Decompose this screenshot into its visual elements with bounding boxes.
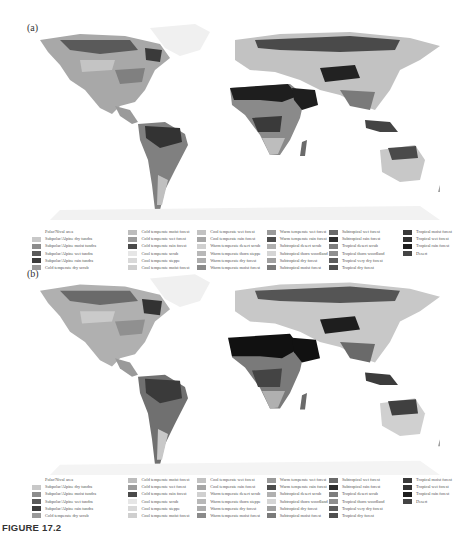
legend-swatch xyxy=(267,499,276,504)
legend-item: Subtropical thorn woodland xyxy=(267,498,329,505)
legend-item: Subtropical rain forest xyxy=(329,484,403,491)
legend-label: Polar/Nival area xyxy=(45,229,73,235)
legend-label: Tropical moist forest xyxy=(416,477,452,483)
legend-item: Warm temperate moist forest xyxy=(197,512,267,519)
legend-item: Warm temperate desert scrub xyxy=(197,243,267,250)
legend-column: Subtropical wet forest Subtropical rain … xyxy=(329,477,403,520)
legend-label: Cold temperate rain forest xyxy=(141,491,186,497)
legend-swatch xyxy=(267,513,276,518)
legend-column: Polar/Nival area Subpolar/Alpine dry tun… xyxy=(32,477,128,520)
legend-item: Tropical rain forest xyxy=(403,243,452,250)
legend-label: Warm temperate moist forest xyxy=(210,513,260,519)
legend-swatch xyxy=(197,499,206,504)
legend-item: Subpolar/Alpine dry tundra xyxy=(32,236,128,243)
legend-swatch xyxy=(267,506,276,511)
legend-label: Subtropical wet forest xyxy=(342,229,380,235)
legend-item: Cold temperate moist forest xyxy=(128,229,197,236)
legend-label: Subtropical wet forest xyxy=(342,477,380,483)
legend-item: Cool temperate moist forest xyxy=(128,512,197,519)
legend-label: Subpolar/Alpine moist tundra xyxy=(45,243,96,249)
legend-item: Tropical moist forest xyxy=(403,477,452,484)
legend-swatch xyxy=(197,513,206,518)
legend-item: Warm temperate rain forest xyxy=(267,484,329,491)
legend-label: Warm temperate desert scrub xyxy=(210,243,260,249)
legend-label: Desert xyxy=(416,499,427,505)
legend-item: Cool temperate wet forest xyxy=(197,229,267,236)
legend-label: Cold temperate wet forest xyxy=(141,236,186,242)
legend-swatch xyxy=(403,499,412,504)
legend-swatch xyxy=(128,230,137,235)
legend-swatch xyxy=(32,506,41,511)
legend-label: Cold temperate moist forest xyxy=(141,477,189,483)
legend-label: Warm temperate rain forest xyxy=(280,484,327,490)
legend-swatch xyxy=(267,478,276,483)
legend-b: Polar/Nival area Subpolar/Alpine dry tun… xyxy=(32,477,452,520)
legend-label: Subpolar/Alpine wet tundra xyxy=(45,499,93,505)
legend-item: Desert xyxy=(403,498,452,505)
legend-item: Cold temperate rain forest xyxy=(128,491,197,498)
legend-swatch xyxy=(329,478,338,483)
legend-swatch xyxy=(32,478,41,483)
legend-swatch xyxy=(403,478,412,483)
legend-item: Cool temperate rain forest xyxy=(197,484,267,491)
legend-swatch xyxy=(403,230,412,235)
legend-swatch xyxy=(128,478,137,483)
legend-swatch xyxy=(32,244,41,249)
legend-label: Subtropical desert scrub xyxy=(280,491,322,497)
legend-swatch xyxy=(32,485,41,490)
legend-swatch xyxy=(197,506,206,511)
legend-column: Cold temperate moist forest Cold tempera… xyxy=(128,477,197,520)
legend-swatch xyxy=(32,513,41,518)
legend-swatch xyxy=(329,244,338,249)
legend-label: Tropical rain forest xyxy=(416,491,449,497)
legend-swatch xyxy=(128,485,137,490)
legend-item: Cool temperate rain forest xyxy=(197,236,267,243)
legend-swatch xyxy=(32,230,41,235)
legend-label: Subtropical thorn woodland xyxy=(280,499,328,505)
legend-label: Tropical thorn woodland xyxy=(342,499,385,505)
legend-swatch xyxy=(197,485,206,490)
legend-item: Subtropical wet forest xyxy=(329,477,403,484)
legend-swatch xyxy=(128,513,137,518)
legend-label: Tropical rain forest xyxy=(416,243,449,249)
legend-swatch xyxy=(197,244,206,249)
legend-label: Cold temperate wet forest xyxy=(141,484,186,490)
legend-label: Tropical very dry forest xyxy=(342,506,383,512)
legend-item: Cold temperate wet forest xyxy=(128,484,197,491)
legend-swatch xyxy=(403,485,412,490)
legend-item: Subpolar/Alpine rain tundra xyxy=(32,505,128,512)
legend-swatch xyxy=(329,499,338,504)
legend-label: Subpolar/Alpine moist tundra xyxy=(45,491,96,497)
legend-label: Warm temperate wet forest xyxy=(280,229,327,235)
legend-swatch xyxy=(197,237,206,242)
legend-item: Subtropical desert scrub xyxy=(267,491,329,498)
legend-label: Cool temperate wet forest xyxy=(210,229,255,235)
legend-swatch xyxy=(197,230,206,235)
legend-item: Cold temperate rain forest xyxy=(128,243,197,250)
legend-label: Warm temperate desert scrub xyxy=(210,491,260,497)
legend-label: Subpolar/Alpine dry tundra xyxy=(45,484,92,490)
legend-label: Subtropical dry forest xyxy=(280,506,317,512)
legend-swatch xyxy=(128,492,137,497)
legend-swatch xyxy=(329,237,338,242)
legend-swatch xyxy=(329,506,338,511)
world-map-b xyxy=(20,260,440,475)
legend-item: Subtropical rain forest xyxy=(329,236,403,243)
legend-item: Tropical thorn woodland xyxy=(329,498,403,505)
legend-label: Tropical wet forest xyxy=(416,236,449,242)
legend-swatch xyxy=(329,513,338,518)
legend-label: Warm temperate dry forest xyxy=(210,506,256,512)
legend-swatch xyxy=(267,230,276,235)
legend-item: Tropical moist forest xyxy=(403,229,452,236)
legend-swatch xyxy=(329,492,338,497)
legend-label: Cool temperate steppe xyxy=(141,506,179,512)
legend-item: Tropical wet forest xyxy=(403,236,452,243)
legend-swatch xyxy=(128,237,137,242)
legend-column: Cool temperate wet forest Cool temperate… xyxy=(197,477,267,520)
legend-label: Cold temperate rain forest xyxy=(141,243,186,249)
panel-a: (a) Polar/Nival area Subpolar/Alpine dry… xyxy=(0,0,457,272)
legend-item: Cool temperate scrub xyxy=(128,498,197,505)
legend-label: Subtropical rain forest xyxy=(342,236,380,242)
legend-swatch xyxy=(329,485,338,490)
legend-label: Warm temperate thorn steppe xyxy=(210,499,261,505)
